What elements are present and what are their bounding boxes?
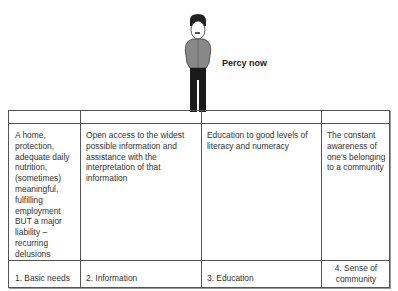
category-information: 2. Information <box>86 273 137 284</box>
figure-label: Percy now <box>222 58 267 68</box>
category-education: 3. Education <box>207 273 254 284</box>
description-information: Open access to the widest possible infor… <box>86 130 198 184</box>
description-basic-needs: A home, protection, adequate daily nutri… <box>15 130 79 260</box>
description-education: Education to good levels of literacy and… <box>207 130 319 152</box>
category-basic-needs: 1. Basic needs <box>15 273 70 284</box>
needs-table: A home, protection, adequate daily nutri… <box>8 110 390 288</box>
person-figure-icon <box>178 12 218 112</box>
category-community: 4. Sense of community <box>327 263 385 285</box>
description-community: The constant awareness of one's belongin… <box>327 130 387 173</box>
